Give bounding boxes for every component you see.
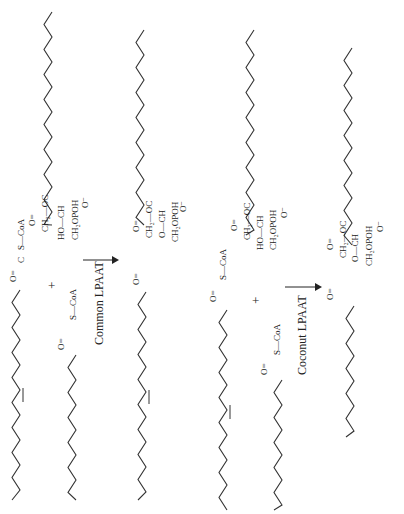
svg-text:O=: O=: [208, 290, 218, 302]
reaction-arrow-coconut: Coconut LPAAT: [285, 283, 322, 375]
diagram-svg: O= C S—CoA O= CH₂—OC HO—CH CH₂OPOH O⁻ + …: [0, 0, 404, 514]
svg-text:S—CoA: S—CoA: [16, 218, 26, 250]
svg-text:O=: O=: [325, 238, 335, 250]
svg-text:O⁻: O⁻: [178, 201, 188, 213]
svg-text:HO—CH: HO—CH: [255, 215, 265, 250]
svg-text:O⁻: O⁻: [279, 207, 289, 219]
svg-text:O=: O=: [27, 214, 37, 226]
svg-text:O=: O=: [8, 270, 18, 282]
panel2-product: O= CH₂—OC O—CH CH₂OPOH O⁻ O=: [325, 221, 385, 301]
svg-text:CH₂OPOH: CH₂OPOH: [364, 225, 374, 266]
chain-p2-r1-lower: [219, 310, 227, 510]
svg-text:O—CH: O—CH: [157, 209, 167, 238]
svg-text:CH₂—OC: CH₂—OC: [144, 201, 154, 238]
panel1-acylcoa-1: O= C S—CoA: [8, 218, 26, 282]
svg-text:HO—CH: HO—CH: [56, 205, 66, 240]
reaction-arrow-common: Common LPAAT: [83, 256, 119, 345]
svg-text:O=: O=: [229, 219, 239, 231]
svg-text:CH₂OPOH: CH₂OPOH: [70, 199, 80, 240]
svg-text:O=: O=: [259, 363, 269, 375]
panel2-acylcoa-2: O= S—CoA: [259, 323, 282, 375]
svg-text:O=: O=: [325, 288, 335, 300]
svg-text:S—CoA: S—CoA: [272, 323, 282, 355]
svg-text:CH₂—OC: CH₂—OC: [242, 203, 252, 240]
plus-sign-1: +: [48, 278, 55, 293]
plus-sign-2: +: [252, 293, 259, 308]
svg-text:CH₂—OC: CH₂—OC: [338, 221, 348, 258]
chain-p1-prod-lower: [138, 292, 146, 500]
chain-p1-lpa: [44, 12, 52, 225]
svg-text:O=: O=: [131, 273, 141, 285]
svg-text:S—CoA: S—CoA: [218, 248, 228, 280]
chain-p2-prod-lower: [346, 306, 354, 437]
svg-text:CH₂OPOH: CH₂OPOH: [268, 209, 278, 250]
svg-text:O⁻: O⁻: [375, 221, 385, 233]
panel1-acylcoa-2: O= S—CoA: [56, 288, 78, 350]
svg-text:C: C: [16, 257, 26, 263]
panel2-acylcoa-1: O= S—CoA: [208, 248, 228, 302]
panel1-product: O= CH₂—OC O—CH CH₂OPOH O⁻ O=: [131, 201, 188, 286]
chain-p1-r2-lower: [68, 355, 76, 500]
chain-p1-r1-lower: [12, 290, 20, 500]
chain-p2-prod-upper: [344, 48, 352, 245]
chain-p1-prod-upper: [136, 30, 144, 225]
panel1-lysophosphatidic-acid: O= CH₂—OC HO—CH CH₂OPOH O⁻: [27, 195, 90, 240]
panel2-lysophosphatidic-acid: O= CH₂—OC HO—CH CH₂OPOH O⁻: [229, 203, 289, 250]
svg-text:O⁻: O⁻: [80, 197, 90, 209]
enzyme-label-coconut: Coconut LPAAT: [295, 294, 309, 375]
svg-text:O=: O=: [56, 338, 66, 350]
chain-p2-r2-lower: [274, 380, 282, 510]
svg-text:O—CH: O—CH: [350, 233, 360, 262]
reaction-diagram: O= C S—CoA O= CH₂—OC HO—CH CH₂OPOH O⁻ + …: [0, 0, 404, 514]
svg-text:CH₂—OC: CH₂—OC: [40, 195, 50, 232]
enzyme-label-common: Common LPAAT: [92, 260, 106, 345]
svg-text:S—CoA: S—CoA: [68, 288, 78, 320]
svg-text:O=: O=: [131, 220, 141, 232]
